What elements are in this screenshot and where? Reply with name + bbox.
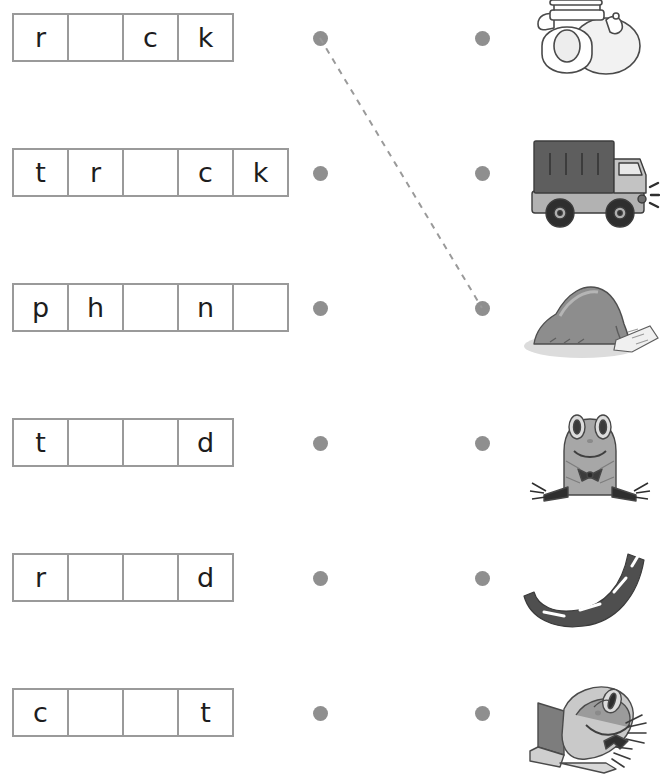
worksheet-row-6: c t <box>0 675 663 778</box>
dot-row-2-left[interactable] <box>313 166 328 181</box>
letter-cell[interactable]: d <box>177 418 234 467</box>
letter-cell[interactable]: c <box>12 688 69 737</box>
dot-row-4-right[interactable] <box>475 436 490 451</box>
letter-glyph: k <box>253 159 269 186</box>
letter-cell[interactable] <box>122 418 179 467</box>
dot-row-3-left[interactable] <box>313 301 328 316</box>
letter-glyph: h <box>87 294 104 321</box>
dot-row-6-left[interactable] <box>313 706 328 721</box>
letter-cell[interactable]: t <box>12 148 69 197</box>
letter-boxes-row-4: t d <box>12 418 232 467</box>
picture-frog <box>520 669 660 778</box>
dot-row-5-right[interactable] <box>475 571 490 586</box>
worksheet-row-1: r c k <box>0 0 663 135</box>
letter-boxes-row-5: r d <box>12 553 232 602</box>
dot-row-4-left[interactable] <box>313 436 328 451</box>
letter-cell[interactable]: h <box>67 283 124 332</box>
letter-cell[interactable]: k <box>177 13 234 62</box>
letter-cell[interactable] <box>67 418 124 467</box>
letter-cell[interactable]: r <box>12 553 69 602</box>
letter-glyph: k <box>198 24 214 51</box>
letter-cell[interactable]: r <box>12 13 69 62</box>
letter-boxes-row-1: r c k <box>12 13 232 62</box>
letter-glyph: c <box>143 24 158 51</box>
picture-telephone <box>520 0 660 104</box>
worksheet-row-5: r d <box>0 540 663 675</box>
letter-glyph: p <box>32 294 49 321</box>
letter-cell[interactable] <box>122 688 179 737</box>
dot-row-5-left[interactable] <box>313 571 328 586</box>
letter-cell[interactable] <box>122 283 179 332</box>
letter-glyph: t <box>200 699 211 726</box>
dot-row-3-right[interactable] <box>475 301 490 316</box>
letter-glyph: d <box>197 564 214 591</box>
picture-rock <box>520 264 660 374</box>
letter-cell[interactable] <box>67 688 124 737</box>
letter-cell[interactable] <box>122 148 179 197</box>
letter-cell[interactable] <box>232 283 289 332</box>
letter-cell[interactable]: k <box>232 148 289 197</box>
dot-row-6-right[interactable] <box>475 706 490 721</box>
letter-glyph: c <box>33 699 48 726</box>
letter-boxes-row-6: c t <box>12 688 232 737</box>
letter-boxes-row-3: p h n <box>12 283 287 332</box>
dot-row-1-right[interactable] <box>475 31 490 46</box>
worksheet-row-2: t r c k <box>0 135 663 270</box>
letter-cell[interactable]: r <box>67 148 124 197</box>
letter-glyph: r <box>90 159 101 186</box>
letter-cell[interactable] <box>122 553 179 602</box>
picture-road <box>520 534 660 644</box>
letter-cell[interactable]: c <box>177 148 234 197</box>
worksheet-row-3: p h n <box>0 270 663 405</box>
dot-row-2-right[interactable] <box>475 166 490 181</box>
letter-glyph: c <box>198 159 213 186</box>
letter-glyph: n <box>197 294 214 321</box>
letter-cell[interactable]: n <box>177 283 234 332</box>
letter-glyph: r <box>35 24 46 51</box>
letter-cell[interactable]: c <box>122 13 179 62</box>
letter-glyph: r <box>35 564 46 591</box>
letter-cell[interactable]: p <box>12 283 69 332</box>
letter-glyph: t <box>35 159 46 186</box>
letter-cell[interactable] <box>67 553 124 602</box>
letter-cell[interactable]: t <box>12 418 69 467</box>
letter-cell[interactable]: d <box>177 553 234 602</box>
letter-boxes-row-2: t r c k <box>12 148 287 197</box>
picture-toad <box>520 399 660 509</box>
letter-glyph: d <box>197 429 214 456</box>
worksheet-row-4: t d <box>0 405 663 540</box>
picture-truck <box>520 129 660 239</box>
letter-glyph: t <box>35 429 46 456</box>
dot-row-1-left[interactable] <box>313 31 328 46</box>
letter-cell[interactable] <box>67 13 124 62</box>
letter-cell[interactable]: t <box>177 688 234 737</box>
